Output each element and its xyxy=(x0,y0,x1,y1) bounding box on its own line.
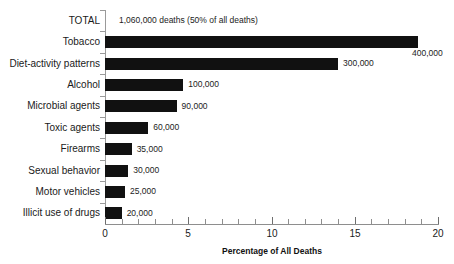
category-label: Firearms xyxy=(0,144,100,154)
category-label: Toxic agents xyxy=(0,123,100,133)
x-axis-title: Percentage of All Deaths xyxy=(105,247,439,256)
bar xyxy=(105,79,183,91)
x-axis-minor-tick xyxy=(288,219,289,224)
bar-value-label: 35,000 xyxy=(137,145,163,154)
x-axis-major-tick xyxy=(438,217,439,224)
x-axis-minor-tick xyxy=(138,219,139,224)
y-axis-tick xyxy=(100,117,105,118)
x-axis-minor-tick xyxy=(321,219,322,224)
x-axis-minor-tick xyxy=(305,219,306,224)
category-label: Tobacco xyxy=(0,37,100,47)
bar-chart: TOTAL1,060,000 deaths (50% of all deaths… xyxy=(0,0,454,264)
x-axis-minor-tick xyxy=(421,219,422,224)
bar xyxy=(105,100,177,112)
x-axis-minor-tick xyxy=(238,219,239,224)
bar xyxy=(105,36,418,48)
y-axis-tick xyxy=(100,31,105,32)
bar-value-label: 300,000 xyxy=(343,59,374,68)
x-axis-major-tick xyxy=(188,217,189,224)
category-label: Alcohol xyxy=(0,80,100,90)
x-axis-tick-label: 10 xyxy=(266,229,277,239)
x-axis-minor-tick xyxy=(371,219,372,224)
x-axis-minor-tick xyxy=(405,219,406,224)
y-axis-tick xyxy=(100,181,105,182)
category-label: Illicit use of drugs xyxy=(0,208,100,218)
category-label: TOTAL xyxy=(0,16,100,26)
bar-value-label: 20,000 xyxy=(127,209,153,218)
y-axis-tick xyxy=(100,74,105,75)
x-axis-tick-label: 20 xyxy=(432,229,443,239)
x-axis-minor-tick xyxy=(388,219,389,224)
bar-value-label: 25,000 xyxy=(130,187,156,196)
bar-value-label: 30,000 xyxy=(133,166,159,175)
bar xyxy=(105,58,338,70)
x-axis-tick-label: 15 xyxy=(349,229,360,239)
x-axis-tick-label: 5 xyxy=(185,229,191,239)
category-label: Motor vehicles xyxy=(0,187,100,197)
x-axis-major-tick xyxy=(272,217,273,224)
bar-value-label: 90,000 xyxy=(182,102,208,111)
x-axis-minor-tick xyxy=(255,219,256,224)
bar xyxy=(105,143,132,155)
x-axis-line xyxy=(105,224,439,225)
x-axis-minor-tick xyxy=(338,219,339,224)
y-axis-tick xyxy=(100,203,105,204)
y-axis-tick xyxy=(100,138,105,139)
x-axis-major-tick xyxy=(105,217,106,224)
y-axis-tick xyxy=(100,160,105,161)
bar xyxy=(105,165,128,177)
bar-value-label: 100,000 xyxy=(188,80,219,89)
x-axis-minor-tick xyxy=(222,219,223,224)
x-axis-minor-tick xyxy=(122,219,123,224)
x-axis-minor-tick xyxy=(205,219,206,224)
category-label: Sexual behavior xyxy=(0,166,100,176)
category-label: Diet-activity patterns xyxy=(0,59,100,69)
x-axis-major-tick xyxy=(355,217,356,224)
y-axis-tick xyxy=(100,10,105,11)
bar xyxy=(105,207,122,219)
y-axis-tick xyxy=(100,96,105,97)
bar xyxy=(105,186,125,198)
y-axis-tick xyxy=(100,53,105,54)
category-label: Microbial agents xyxy=(0,101,100,111)
bar-value-label: 60,000 xyxy=(153,123,179,132)
total-annotation: 1,060,000 deaths (50% of all deaths) xyxy=(119,16,258,25)
bar xyxy=(105,122,148,134)
x-axis-minor-tick xyxy=(155,219,156,224)
x-axis-tick-label: 0 xyxy=(102,229,108,239)
x-axis-minor-tick xyxy=(172,219,173,224)
bar-value-label: 400,000 xyxy=(412,49,443,58)
